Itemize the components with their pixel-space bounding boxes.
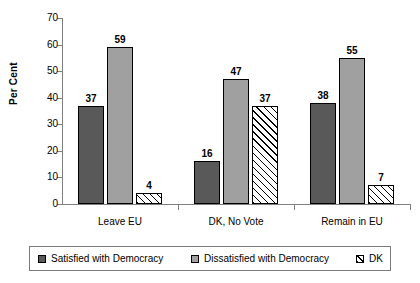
bar-value-label: 59 — [114, 34, 125, 46]
bar-value-label: 16 — [201, 148, 212, 160]
y-axis-tick-label: 40 — [47, 91, 58, 104]
bar-dk-remain-in-eu: 7 — [368, 185, 394, 204]
bar-satisfied-leave-eu: 37 — [78, 106, 104, 204]
legend-swatch-icon-dissatisfied — [191, 255, 199, 263]
y-axis-tick-label: 20 — [47, 144, 58, 157]
y-axis-tick-label: 10 — [47, 170, 58, 183]
x-axis-tick — [294, 204, 295, 210]
bar-satisfied-dk-no-vote: 16 — [194, 161, 220, 204]
legend-item-satisfied: Satisfied with Democracy — [38, 251, 163, 266]
legend-item-dk: DK — [356, 251, 383, 266]
bar-value-label: 4 — [146, 180, 152, 192]
legend-swatch-icon-dk — [356, 255, 364, 263]
y-axis-tick-label: 30 — [47, 117, 58, 130]
y-axis-title: Per Cent — [8, 49, 19, 119]
bar-value-label: 7 — [378, 172, 384, 184]
bar-dk-leave-eu: 4 — [136, 193, 162, 204]
y-axis-tick-label: 50 — [47, 64, 58, 77]
bar-value-label: 37 — [259, 93, 270, 105]
x-axis-tick — [178, 204, 179, 210]
x-axis-category-label: Leave EU — [98, 215, 142, 228]
x-axis-line — [62, 204, 410, 205]
plot-area: 706050403020100 3759416473738557 — [62, 18, 410, 204]
bar-satisfied-remain-in-eu: 38 — [310, 103, 336, 204]
bar-dissat-remain-in-eu: 55 — [339, 58, 365, 204]
y-axis-tick-label: 60 — [47, 38, 58, 51]
x-axis-tick — [410, 204, 411, 210]
bar-value-label: 47 — [230, 66, 241, 78]
legend-item-dissatisfied: Dissatisfied with Democracy — [191, 251, 329, 266]
x-axis-category-label: DK, No Vote — [208, 215, 263, 228]
legend-label-dissatisfied: Dissatisfied with Democracy — [204, 252, 329, 266]
bar-value-label: 37 — [85, 93, 96, 105]
legend-label-dk: DK — [369, 252, 383, 266]
legend-label-satisfied: Satisfied with Democracy — [51, 252, 163, 266]
bar-value-label: 38 — [317, 90, 328, 102]
y-axis-tick-label: 70 — [47, 11, 58, 24]
bar-value-label: 55 — [346, 45, 357, 57]
bar-dissat-dk-no-vote: 47 — [223, 79, 249, 204]
legend-swatch-icon-satisfied — [38, 255, 46, 263]
y-axis-line — [62, 18, 63, 204]
y-axis-tick-label: 0 — [52, 197, 58, 210]
chart-legend: Satisfied with Democracy Dissatisfied wi… — [29, 246, 391, 271]
x-axis-category-label: Remain in EU — [321, 215, 383, 228]
bar-dissat-leave-eu: 59 — [107, 47, 133, 204]
bar-dk-dk-no-vote: 37 — [252, 106, 278, 204]
bar-chart: Per Cent 706050403020100 375941647373855… — [0, 0, 420, 283]
